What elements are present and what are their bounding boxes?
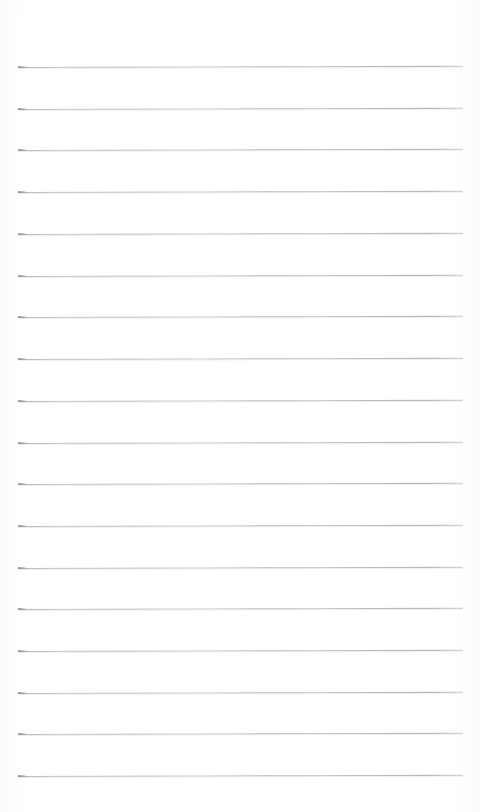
ruled-line (18, 442, 463, 444)
ruled-line (18, 108, 463, 110)
ruled-line-start-tick (18, 233, 27, 235)
ruled-line (18, 191, 463, 193)
ruled-line (18, 358, 463, 360)
ruled-line (18, 233, 463, 235)
ruled-line (18, 316, 463, 318)
ruled-line-start-tick (18, 483, 27, 485)
ruled-line (18, 275, 463, 277)
ruled-line (18, 650, 463, 652)
ruled-line-start-tick (18, 400, 27, 402)
ruled-line-start-tick (18, 650, 27, 652)
ruled-line-start-tick (18, 567, 27, 569)
scanned-page (0, 0, 480, 812)
ruled-line (18, 66, 463, 68)
ruled-line-start-tick (18, 66, 27, 68)
ruled-line-start-tick (18, 316, 27, 318)
ruled-line-start-tick (18, 358, 27, 360)
ruled-line (18, 400, 463, 402)
ruled-line-start-tick (18, 525, 27, 527)
ruled-line-start-tick (18, 149, 27, 151)
ruled-line (18, 692, 463, 694)
ruled-line (18, 525, 463, 527)
ruled-line (18, 567, 463, 569)
ruled-line-start-tick (18, 108, 27, 110)
ruled-line-start-tick (18, 692, 27, 694)
ruled-line-start-tick (18, 775, 27, 777)
ruled-line-start-tick (18, 442, 27, 444)
ruled-line (18, 775, 463, 777)
ruled-line (18, 733, 463, 735)
ruled-line (18, 483, 463, 485)
ruled-lines-layer (0, 0, 480, 812)
ruled-line (18, 149, 463, 151)
ruled-line-start-tick (18, 275, 27, 277)
ruled-line-start-tick (18, 608, 27, 610)
ruled-line (18, 608, 463, 610)
ruled-line-start-tick (18, 733, 27, 735)
ruled-line-start-tick (18, 191, 27, 193)
